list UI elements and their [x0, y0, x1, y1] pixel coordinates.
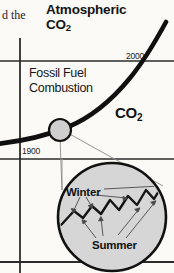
preceding-body-text-fragment: d the: [2, 8, 26, 23]
figure-title-co2-text: CO: [46, 17, 66, 32]
co2-curve-label: CO2: [115, 104, 142, 121]
magnifier-circle: [58, 163, 166, 271]
figure-title: Atmospheric CO2: [46, 2, 170, 33]
figure-title-line-1: Atmospheric: [46, 2, 126, 17]
axis-tick-label-2000: 2000: [126, 51, 144, 61]
figure-title-line-2: CO2: [46, 17, 71, 32]
axis-tick-label-1900: 1900: [22, 146, 40, 156]
sample-region-circle: [49, 119, 71, 141]
figure-canvas: [0, 0, 174, 273]
fossil-fuel-combustion-label: Fossil Fuel Combustion: [29, 66, 133, 96]
inset-winter-label: Winter: [66, 186, 100, 198]
figure-title-co2-subscript: 2: [66, 22, 71, 33]
inset-summer-label: Summer: [92, 239, 137, 251]
co2-curve-label-subscript: 2: [137, 112, 142, 123]
atmospheric-co2-figure: d the Atmospheric CO2 Fossil Fuel Combus…: [0, 0, 174, 273]
